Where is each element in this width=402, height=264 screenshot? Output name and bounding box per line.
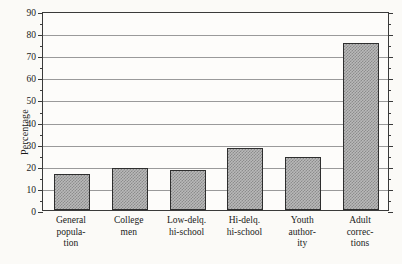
y-tick-minor-right bbox=[388, 24, 391, 25]
y-tick-major-right bbox=[388, 168, 393, 169]
x-axis-labels: General popula- tionCollege menLow-delq.… bbox=[42, 215, 389, 263]
x-tick-label: General popula- tion bbox=[42, 215, 100, 250]
y-tick-label: 40 bbox=[27, 119, 37, 129]
y-tick-minor-right bbox=[388, 68, 391, 69]
y-tick-minor-right bbox=[388, 135, 391, 136]
y-tick-major-right bbox=[388, 35, 393, 36]
y-tick-minor-right bbox=[388, 201, 391, 202]
y-tick-major-right bbox=[388, 146, 393, 147]
y-tick-label: 0 bbox=[31, 207, 36, 217]
bar bbox=[112, 168, 148, 210]
y-tick-label: 60 bbox=[27, 74, 37, 84]
x-tick-label: Hi-delq. hi-school bbox=[216, 215, 274, 238]
y-tick-label: 90 bbox=[27, 8, 37, 18]
x-tick-label: Youth author- ity bbox=[273, 215, 331, 250]
y-tick-minor-right bbox=[388, 113, 391, 114]
x-tick-label: Adult correc- tions bbox=[331, 215, 389, 250]
y-tick-label: 50 bbox=[27, 96, 37, 106]
x-tick-label: Low-delq. hi-school bbox=[158, 215, 216, 238]
y-tick-minor-right bbox=[388, 46, 391, 47]
y-tick-minor-right bbox=[388, 90, 391, 91]
y-tick-major-right bbox=[388, 124, 393, 125]
bar bbox=[343, 43, 379, 210]
bar bbox=[170, 170, 206, 210]
y-tick-label: 30 bbox=[27, 141, 37, 151]
bar bbox=[54, 174, 90, 210]
y-tick-minor-right bbox=[388, 179, 391, 180]
y-tick-minor-right bbox=[388, 157, 391, 158]
plot-area: 0102030405060708090 bbox=[42, 12, 389, 211]
y-tick-label: 70 bbox=[27, 52, 37, 62]
y-tick-major bbox=[38, 212, 43, 213]
y-tick-major-right bbox=[388, 212, 393, 213]
bar bbox=[227, 148, 263, 210]
y-tick-label: 80 bbox=[27, 30, 37, 40]
y-tick-label: 10 bbox=[27, 185, 37, 195]
bar-chart: Percentage 0102030405060708090 General p… bbox=[0, 0, 402, 264]
bar bbox=[285, 157, 321, 210]
y-tick-major-right bbox=[388, 79, 393, 80]
y-tick-major-right bbox=[388, 13, 393, 14]
y-tick-major-right bbox=[388, 101, 393, 102]
y-tick-label: 20 bbox=[27, 163, 37, 173]
y-tick-major-right bbox=[388, 57, 393, 58]
bar-series bbox=[43, 13, 388, 210]
y-tick-major-right bbox=[388, 190, 393, 191]
x-tick-label: College men bbox=[100, 215, 158, 238]
